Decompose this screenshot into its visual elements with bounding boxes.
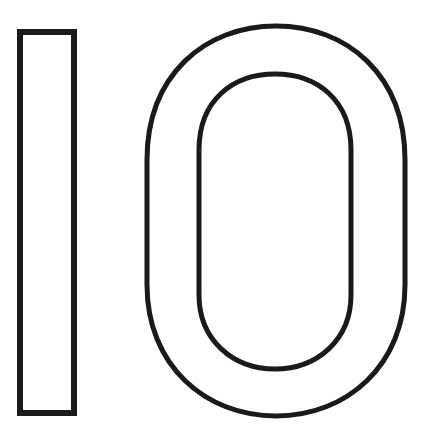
digit-zero-outer-outline: [147, 26, 405, 416]
digit-zero-inner-outline: [199, 74, 351, 369]
digit-one-outline: [20, 32, 74, 413]
number-10-outline: [0, 0, 430, 441]
